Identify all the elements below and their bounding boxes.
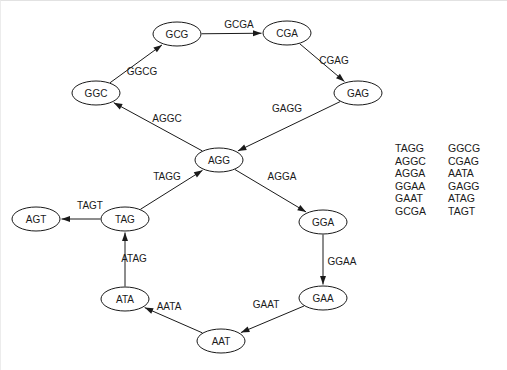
node-label: CGA bbox=[276, 28, 298, 39]
edge-gaa-to-aat: GAAT bbox=[241, 299, 304, 333]
kmer-item: CGAG bbox=[448, 155, 479, 167]
edge-agg-to-gga: AGGA bbox=[235, 170, 306, 212]
edge-label: GAGG bbox=[272, 103, 302, 114]
edge-label: GGAA bbox=[328, 256, 357, 267]
arrowhead-icon bbox=[238, 145, 247, 151]
edge-label: AGGC bbox=[152, 113, 181, 124]
node-ata[interactable]: ATA bbox=[101, 287, 149, 311]
edge-line bbox=[114, 103, 202, 151]
arrowhead-icon bbox=[241, 327, 250, 333]
node-label: AAT bbox=[212, 336, 231, 347]
kmer-item: GAGG bbox=[448, 180, 480, 192]
kmer-item: AGGC bbox=[395, 155, 426, 167]
kmer-item: AATA bbox=[448, 167, 474, 179]
node-label: TAG bbox=[115, 214, 135, 225]
edge-label: ATAG bbox=[121, 253, 147, 264]
kmer-item: GGCG bbox=[448, 142, 480, 154]
arrowhead-icon bbox=[253, 30, 262, 36]
node-label: AGG bbox=[208, 155, 230, 166]
kmer-column-right: GGCGCGAGAATAGAGGATAGTAGT bbox=[448, 142, 480, 217]
node-gga[interactable]: GGA bbox=[299, 210, 347, 234]
edge-tag-to-agg: TAGG bbox=[140, 170, 202, 209]
node-gaa[interactable]: GAA bbox=[299, 286, 347, 310]
node-label: GCG bbox=[166, 29, 189, 40]
edge-label: GGCG bbox=[127, 66, 158, 77]
edge-label: GCGA bbox=[224, 19, 254, 30]
edge-agg-to-ggc: AGGC bbox=[114, 103, 202, 151]
node-label: GGC bbox=[85, 88, 108, 99]
node-label: AGT bbox=[26, 214, 47, 225]
kmer-column-left: TAGGAGGCAGGAGGAAGAATGCGA bbox=[395, 142, 426, 217]
node-agg[interactable]: AGG bbox=[195, 148, 243, 172]
arrowhead-icon bbox=[114, 103, 123, 110]
node-label: GGA bbox=[312, 217, 335, 228]
edge-tag-to-agt: TAGT bbox=[62, 200, 103, 223]
kmer-item: ATAG bbox=[448, 192, 475, 204]
node-aat[interactable]: AAT bbox=[197, 329, 245, 353]
edge-label: TAGG bbox=[153, 171, 181, 182]
edge-ggc-to-gcg: GGCG bbox=[110, 45, 162, 83]
node-tag[interactable]: TAG bbox=[101, 207, 149, 231]
arrowhead-icon bbox=[145, 308, 154, 314]
arrowhead-icon bbox=[194, 170, 203, 177]
edge-label: GAAT bbox=[253, 299, 279, 310]
edge-aat-to-ata: AATA bbox=[145, 301, 203, 333]
figure-canvas: GCGACGAGGAGGAGGCGGCGAGGAGGAAGAATAATAATAG… bbox=[0, 0, 507, 370]
node-label: GAG bbox=[347, 88, 369, 99]
arrowhead-icon bbox=[62, 216, 71, 222]
edge-ata-to-tag: ATAG bbox=[121, 233, 147, 287]
edge-cga-to-gag: CGAG bbox=[300, 44, 349, 82]
node-gcg[interactable]: GCG bbox=[153, 22, 201, 46]
edges-layer: GCGACGAGGAGGAGGCGGCGAGGAGGAAGAATAATAATAG… bbox=[62, 19, 357, 333]
edge-line bbox=[110, 45, 162, 83]
node-cga[interactable]: CGA bbox=[263, 21, 311, 45]
node-ggc[interactable]: GGC bbox=[72, 81, 120, 105]
edge-label: AATA bbox=[157, 301, 182, 312]
kmer-item: GAAT bbox=[395, 192, 423, 204]
node-label: GAA bbox=[312, 293, 333, 304]
edge-gga-to-gaa: GGAA bbox=[320, 235, 357, 285]
kmer-list: TAGGAGGCAGGAGGAAGAATGCGAGGCGCGAGAATAGAGG… bbox=[395, 142, 480, 217]
edge-label: CGAG bbox=[319, 55, 349, 66]
arrowhead-icon bbox=[320, 276, 326, 285]
nodes-layer: GCGCGAGAGGGCAGGAGTTAGGGAATAGAAAAT bbox=[12, 21, 382, 353]
kmer-item: TAGT bbox=[448, 205, 476, 217]
arrowhead-icon bbox=[122, 233, 128, 242]
node-agt[interactable]: AGT bbox=[12, 207, 60, 231]
edge-line bbox=[202, 33, 262, 34]
node-gag[interactable]: GAG bbox=[334, 81, 382, 105]
edge-label: AGGA bbox=[268, 171, 297, 182]
kmer-item: AGGA bbox=[395, 167, 425, 179]
arrowhead-icon bbox=[297, 205, 306, 212]
de-bruijn-graph: GCGACGAGGAGGAGGCGGCGAGGAGGAAGAATAATAATAG… bbox=[1, 1, 507, 370]
edge-label: TAGT bbox=[77, 200, 103, 211]
kmer-item: GGAA bbox=[395, 180, 425, 192]
edge-gag-to-agg: GAGG bbox=[238, 102, 340, 151]
edge-gcg-to-cga: GCGA bbox=[202, 19, 262, 37]
edge-line bbox=[241, 306, 304, 333]
arrowhead-icon bbox=[153, 45, 162, 52]
kmer-item: GCGA bbox=[395, 205, 426, 217]
node-label: ATA bbox=[116, 294, 134, 305]
kmer-item: TAGG bbox=[395, 142, 424, 154]
